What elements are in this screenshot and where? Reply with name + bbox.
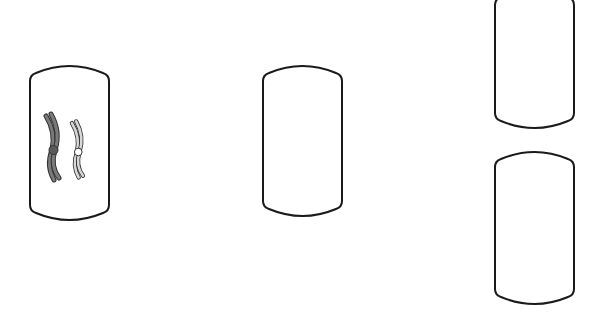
centromere: [49, 146, 58, 155]
cell-membrane: [495, 152, 574, 304]
cell-membrane: [263, 66, 342, 216]
daughter-cell-top: [495, 0, 574, 128]
cell-membrane: [495, 0, 574, 128]
daughter-cell-bottom: [495, 152, 574, 304]
parent-cell: [30, 66, 109, 220]
centromere: [74, 148, 82, 156]
cell-division-diagram: [0, 0, 603, 314]
middle-cell: [263, 66, 342, 216]
cell-membrane: [30, 66, 109, 220]
